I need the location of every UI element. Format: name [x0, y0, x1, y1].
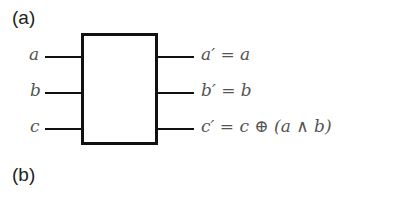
output-label-c: c′ = c ⊕ (a ∧ b)	[201, 118, 332, 135]
output-wire-b	[157, 92, 194, 94]
output-wire-a	[157, 56, 194, 58]
input-label-c: c	[30, 118, 40, 135]
output-wire-c	[157, 128, 194, 130]
gate-box	[81, 33, 158, 145]
panel-label-b: (b)	[12, 165, 35, 184]
input-label-b: b	[30, 82, 41, 99]
panel-label-a: (a)	[12, 8, 35, 27]
input-wire-b	[45, 92, 82, 94]
input-label-a: a	[29, 46, 39, 63]
input-wire-c	[45, 128, 82, 130]
output-label-a: a′ = a	[201, 46, 250, 63]
output-label-b: b′ = b	[201, 82, 252, 99]
input-wire-a	[45, 56, 82, 58]
